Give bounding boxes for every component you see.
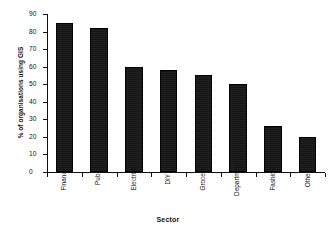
x-axis-category-label-text: Fashion xyxy=(270,168,276,191)
x-axis-category-label-text: Grocery xyxy=(200,168,206,191)
x-axis-title: Sector xyxy=(0,216,336,223)
y-axis-tick xyxy=(43,154,47,155)
bar xyxy=(160,70,177,172)
y-axis-tick-label: 50 xyxy=(29,81,38,88)
bar xyxy=(125,67,142,172)
y-axis-tick-label: 90 xyxy=(29,11,38,18)
y-axis-tick-label: 30 xyxy=(29,116,38,123)
y-axis-tick xyxy=(43,84,47,85)
y-axis-tick-label: 60 xyxy=(29,63,38,70)
y-axis-tick xyxy=(43,67,47,68)
x-axis-category-label-text: Finance xyxy=(61,168,67,191)
y-axis-tick-label: 70 xyxy=(29,46,38,53)
y-axis-tick-label: 20 xyxy=(29,134,38,141)
y-axis-tick xyxy=(43,102,47,103)
bar xyxy=(56,23,73,172)
bar xyxy=(264,126,281,172)
y-axis-tick xyxy=(43,32,47,33)
x-axis-category-label-text: Department xyxy=(235,163,241,196)
y-axis-line xyxy=(47,14,48,173)
y-axis-tick-label: 10 xyxy=(29,151,38,158)
y-axis-tick xyxy=(43,119,47,120)
y-axis-tick xyxy=(43,14,47,15)
bar-chart: % of organisations using GIS 90807060504… xyxy=(0,0,336,236)
x-axis-category-label: Other xyxy=(288,176,328,216)
y-axis-title-text: % of organisations using GIS xyxy=(18,46,25,138)
y-axis-tick xyxy=(43,49,47,50)
y-axis-tick xyxy=(43,137,47,138)
x-axis-category-label-text: Electrial xyxy=(131,168,137,191)
bar xyxy=(299,137,316,172)
x-axis-category-label-text: Other xyxy=(304,171,310,187)
x-axis-category-label-text: DIY xyxy=(165,174,171,185)
x-axis-category-labels: FinancePubElectrialDIYGroceryDepartmentF… xyxy=(47,176,325,216)
y-axis-tick-label: 40 xyxy=(29,98,38,105)
plot-area: 9080706050403020100 xyxy=(47,14,325,173)
y-axis-tick-label: 0 xyxy=(29,169,38,176)
y-axis-title: % of organisations using GIS xyxy=(14,12,28,172)
x-axis-category-label-text: Pub xyxy=(96,174,102,185)
bar xyxy=(90,28,107,172)
bar xyxy=(195,75,212,172)
bar xyxy=(229,84,246,172)
y-axis-tick-label: 80 xyxy=(29,28,38,35)
